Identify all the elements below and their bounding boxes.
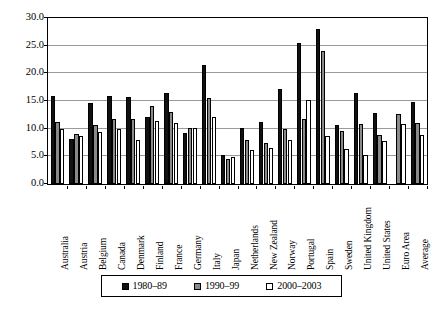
bar: [207, 98, 211, 184]
x-tick-mark: [67, 186, 68, 189]
y-tick-label: 0.0: [0, 178, 44, 188]
bar: [382, 141, 386, 184]
legend-swatch-2000-2003: [266, 283, 273, 290]
x-tick-mark: [86, 186, 87, 189]
bar: [74, 134, 78, 184]
bar: [193, 128, 197, 184]
y-tick-label: 25.0: [0, 40, 44, 50]
legend-item-2000-2003: 2000–2003: [266, 281, 321, 291]
x-tick-label: Finland: [156, 242, 166, 270]
x-tick-mark: [408, 186, 409, 189]
x-tick-label: Norway: [288, 240, 298, 270]
bar: [117, 129, 121, 184]
y-tick-label: 10.0: [0, 123, 44, 133]
bar: [221, 155, 225, 184]
legend-label-1980-89: 1980–89: [133, 281, 167, 291]
bar: [373, 113, 377, 184]
bar: [288, 140, 292, 184]
x-tick-mark: [181, 186, 182, 189]
x-tick-mark: [389, 186, 390, 189]
y-tick-label: 15.0: [0, 95, 44, 105]
x-tick-mark: [124, 186, 125, 189]
bar: [183, 133, 187, 184]
bar: [164, 93, 168, 184]
bar: [51, 96, 55, 184]
bar: [107, 96, 111, 184]
x-tick-mark: [370, 186, 371, 189]
bar: [325, 136, 329, 184]
bar: [415, 123, 419, 184]
x-tick-label: France: [175, 245, 185, 270]
bar: [278, 89, 282, 184]
x-tick-mark: [219, 186, 220, 189]
bar: [169, 112, 173, 184]
bar: [411, 102, 415, 184]
bar: [321, 51, 325, 184]
bar: [245, 140, 249, 184]
x-tick-mark: [256, 186, 257, 189]
x-tick-mark: [200, 186, 201, 189]
bar: [55, 122, 59, 184]
bar: [283, 129, 287, 184]
bar: [174, 123, 178, 184]
bar: [306, 100, 310, 184]
bar: [136, 140, 140, 184]
legend-item-1990-99: 1990–99: [194, 281, 239, 291]
bar: [112, 119, 116, 184]
bar: [98, 132, 102, 184]
bar: [60, 129, 64, 184]
legend-item-1980-89: 1980–89: [122, 281, 167, 291]
bars-layer: [48, 18, 427, 184]
x-tick-label: Canada: [118, 242, 128, 270]
bar: [226, 159, 230, 184]
x-tick-label: Netherlands: [251, 225, 261, 270]
x-tick-label: Germany: [194, 235, 204, 270]
bar: [240, 128, 244, 184]
bar: [264, 143, 268, 184]
x-tick-label: United Kingdom: [364, 207, 374, 270]
bar: [401, 124, 405, 184]
bar: [259, 122, 263, 184]
bar: [188, 128, 192, 184]
legend-label-2000-2003: 2000–2003: [277, 281, 321, 291]
x-tick-label: Average: [421, 239, 431, 270]
x-tick-label: Austria: [80, 243, 90, 270]
x-tick-label: Australia: [61, 236, 71, 270]
y-tick-label: 30.0: [0, 12, 44, 22]
x-tick-mark: [105, 186, 106, 189]
bar: [396, 114, 400, 184]
x-tick-label: United States: [383, 220, 393, 270]
x-tick-mark: [275, 186, 276, 189]
bar: [420, 135, 424, 184]
y-tick-label: 5.0: [0, 150, 44, 160]
x-tick-label: Sweden: [345, 241, 355, 270]
bar: [150, 106, 154, 184]
x-tick-label: Italy: [213, 253, 223, 270]
bar: [88, 103, 92, 184]
x-tick-mark: [332, 186, 333, 189]
legend-label-1990-99: 1990–99: [205, 281, 239, 291]
bar: [93, 125, 97, 184]
x-tick-label: New Zealand: [270, 220, 280, 270]
x-tick-label: Denmark: [137, 235, 147, 270]
bar: [231, 157, 235, 184]
x-tick-label: Japan: [232, 249, 242, 270]
x-tick-mark: [351, 186, 352, 189]
x-tick-mark: [313, 186, 314, 189]
x-axis-labels: AustraliaAustriaBelgiumCanadaDenmarkFinl…: [48, 186, 427, 272]
bar: [316, 29, 320, 184]
bar: [126, 97, 130, 184]
x-tick-mark: [294, 186, 295, 189]
bar: [359, 124, 363, 184]
x-tick-mark: [427, 186, 428, 189]
bar: [269, 148, 273, 184]
chart-legend: 1980–89 1990–99 2000–2003: [101, 275, 342, 297]
x-tick-label: Portugal: [307, 239, 317, 270]
legend-swatch-1980-89: [122, 283, 129, 290]
x-tick-label: Belgium: [99, 238, 109, 270]
x-tick-label: Euro Area: [402, 232, 412, 270]
bar: [69, 139, 73, 184]
bar: [363, 155, 367, 184]
bar: [377, 135, 381, 184]
bar: [340, 131, 344, 184]
